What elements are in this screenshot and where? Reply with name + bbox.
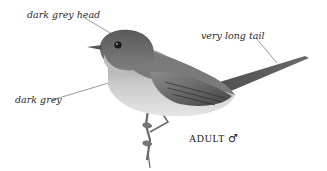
legs-and-perch [143,110,168,168]
annotation-dark-grey-head: dark grey head [27,10,100,20]
bird-illustration: dark grey head very long tail dark grey … [0,0,327,171]
beak [87,45,102,50]
eye [114,41,121,48]
male-symbol-icon: ♂ [228,132,238,145]
bird-drawing [0,0,327,171]
annotation-dark-grey: dark grey [15,95,62,105]
caption-adult-male: ADULT♂ [189,133,238,144]
leader-line-tail [256,38,277,63]
annotation-very-long-tail: very long tail [201,31,264,41]
caption-age-label: ADULT [189,133,225,144]
